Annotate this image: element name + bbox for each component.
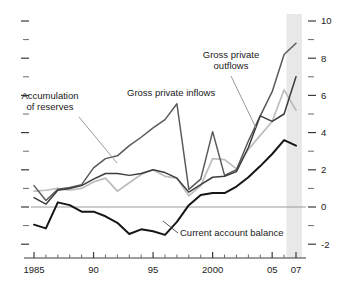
chart-container: 1086420-2 1985909520000507 Accumulationo…	[0, 0, 344, 296]
annotation-accumulation-of-reserves: Accumulationof reserves	[21, 90, 78, 112]
y-axis-label: 6	[321, 90, 326, 101]
y-axis-right-labels: 1086420-2	[321, 15, 332, 249]
leader-line-accumulation-of-reserves	[79, 117, 117, 163]
leader-line-gross-private-outflows	[231, 76, 256, 128]
y-axis-label: 10	[321, 15, 332, 26]
x-axis-ticks	[34, 252, 296, 258]
y-axis-right-ticks	[308, 21, 316, 244]
y-axis-left-ticks	[21, 21, 29, 244]
y-axis-label: -2	[321, 239, 329, 250]
annotation-gross-private-outflows: Gross privateoutflows	[203, 49, 260, 71]
annotation-line: outflows	[214, 60, 249, 71]
x-axis-label: 1985	[23, 264, 44, 275]
y-axis-label: 8	[321, 53, 326, 64]
x-axis-label: 05	[267, 264, 278, 275]
annotation-labels: Accumulationof reservesGross private inf…	[21, 49, 283, 238]
y-axis-label: 2	[321, 164, 326, 175]
x-axis-label: 90	[88, 264, 99, 275]
line-chart: 1086420-2 1985909520000507 Accumulationo…	[0, 0, 344, 296]
data-series-group	[34, 43, 296, 235]
annotation-line: Gross private inflows	[127, 87, 215, 98]
y-axis-label: 4	[321, 127, 326, 138]
annotation-current-account-balance: Current account balance	[180, 227, 284, 238]
x-axis-label: 95	[148, 264, 159, 275]
annotation-leaders	[79, 76, 256, 233]
y-axis-label: 0	[321, 201, 326, 212]
x-axis-label: 2000	[202, 264, 223, 275]
x-axis-labels: 1985909520000507	[23, 264, 301, 275]
annotation-line: Current account balance	[180, 227, 284, 238]
annotation-gross-private-inflows: Gross private inflows	[127, 87, 215, 98]
x-axis-label: 07	[291, 264, 302, 275]
annotation-line: of reserves	[27, 101, 74, 112]
annotation-line: Gross private	[203, 49, 260, 60]
annotation-line: Accumulation	[21, 90, 78, 101]
